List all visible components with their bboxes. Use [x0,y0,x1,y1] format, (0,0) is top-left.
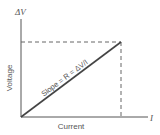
slope-label: Slope = R = ΔV/I [39,58,89,99]
y-axis-label: Voltage [5,64,14,91]
x-axis-symbol: I [149,113,154,123]
slope-line [21,42,121,117]
voltage-current-diagram: ΔV I Voltage Current Slope = R = ΔV/I [0,0,160,135]
x-axis-label: Current [58,122,85,131]
y-axis-symbol: ΔV [14,7,27,17]
